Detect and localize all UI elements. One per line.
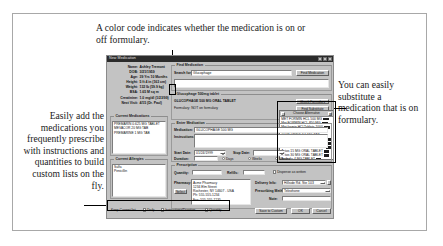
stop-date-input[interactable] xyxy=(253,150,285,156)
radio-icon[interactable] xyxy=(222,157,225,160)
duration-unit-days[interactable]: Days xyxy=(222,157,234,162)
current-medications-legend: Current Medications xyxy=(114,114,151,119)
formulary-color-code xyxy=(323,118,329,121)
window-body: Name:Ashley Tremont DOB:3/21/1959 Age:39… xyxy=(107,62,333,219)
popup-header: Choose Alternative x xyxy=(280,111,333,117)
keep-current-list-checkbox[interactable]: Keep Current list xyxy=(111,208,136,213)
patient-value: 4/15 (Dr. Paul) xyxy=(140,101,162,106)
start-date-input[interactable]: 01/24/1999 xyxy=(194,150,226,156)
search-input[interactable]: Glucophage xyxy=(191,70,292,76)
footer-checkbox-label: Daily xyxy=(147,208,154,212)
duration-label: Duration: xyxy=(174,157,189,161)
find-medication-button[interactable]: Find Medication xyxy=(296,70,329,76)
dispense-label: Dispense as written xyxy=(277,170,306,174)
prescribing-method-value: Telephone xyxy=(284,189,300,193)
quantity-checkbox[interactable]: Quantity xyxy=(205,208,221,213)
duration-input[interactable] xyxy=(194,156,218,161)
prescribing-method-select[interactable]: Telephone xyxy=(282,188,331,193)
medication-label: Medication: xyxy=(174,128,193,132)
figure-container: A color code indicates whether the medic… xyxy=(0,0,443,246)
current-allergies-list[interactable]: Sulfa Penicillin xyxy=(112,164,166,197)
duration-unit-label: Months xyxy=(279,157,290,161)
checkbox-icon[interactable] xyxy=(273,170,276,173)
instructions-duration-checkbox[interactable]: Instructions/Duration xyxy=(161,208,195,213)
delivery-label: Delivery Info: xyxy=(255,181,276,185)
checkbox-icon[interactable] xyxy=(143,208,146,211)
window-controls[interactable] xyxy=(318,57,332,61)
footer-checkbox-label: Keep Current list xyxy=(111,208,136,212)
chevron-down-icon[interactable] xyxy=(279,152,283,155)
application-window: New Medication Name:Ashley Tremont DOB:3… xyxy=(106,55,334,219)
refills-label: Refills: xyxy=(227,171,238,175)
duration-unit-label: Days xyxy=(226,157,234,161)
maximize-icon[interactable] xyxy=(323,57,327,61)
select-pharmacy-button[interactable]: Select xyxy=(174,189,187,194)
leader-line-left xyxy=(84,205,106,206)
quantity-label: Quantity: xyxy=(174,171,189,175)
checkbox-icon[interactable] xyxy=(205,208,208,211)
instructions-textarea[interactable] xyxy=(194,134,328,148)
selected-medication-name: GLUCOPHAGE 500 MG ORAL TABLET xyxy=(174,99,236,103)
formulary-status-label: Formulary: NOT on formulary xyxy=(174,106,218,110)
patient-key: Next Visit: xyxy=(121,101,138,106)
notes-label: Note: xyxy=(269,197,278,201)
popup-system-icon[interactable] xyxy=(281,112,285,116)
selected-medication-legend: Glucophage 500mg tablet xyxy=(175,92,221,97)
save-to-custom-button[interactable]: Save to Custom xyxy=(255,208,287,214)
enter-medication-legend: Enter Medication xyxy=(175,121,206,126)
find-medication-legend: Find Medication xyxy=(175,63,205,68)
close-icon[interactable] xyxy=(328,57,332,61)
instructions-label: Instructions: xyxy=(174,135,195,139)
duration-unit-months[interactable]: Months xyxy=(275,157,290,162)
popup-title: Choose Alternative xyxy=(293,111,320,115)
radio-icon[interactable] xyxy=(248,157,251,160)
stop-date-label: Stop Date: xyxy=(233,151,250,155)
footer-checkbox-label: Instructions/Duration xyxy=(165,208,195,212)
caption-right: You can easily substitute a medication t… xyxy=(338,79,424,125)
duration-unit-label: Weeks xyxy=(252,157,262,161)
refills-input[interactable] xyxy=(243,170,265,175)
delivery-select[interactable]: Hillside Rd. Ste 103 xyxy=(282,180,326,185)
start-date-label: Start Date: xyxy=(174,151,191,155)
patient-row: Next Visit:4/15 (Dr. Paul) xyxy=(110,101,168,106)
chevron-down-icon[interactable] xyxy=(220,152,224,155)
patient-demographics: Name:Ashley Tremont DOB:3/21/1959 Age:39… xyxy=(110,65,168,112)
list-item[interactable]: Penicillin xyxy=(113,169,165,173)
prescription-legend: Prescription xyxy=(175,163,198,168)
pharmacy-line: Fax: 555-555-1235 xyxy=(192,198,250,202)
caption-top: A color code indicates whether the medic… xyxy=(96,22,311,45)
list-item[interactable]: PREMARINE 1 MG TAB xyxy=(113,131,165,135)
dispense-as-written-checkbox[interactable]: Dispense as written xyxy=(273,170,306,175)
caption-left: Easily add the medications you frequentl… xyxy=(18,110,104,191)
delivery-lookup-button[interactable] xyxy=(327,180,331,185)
ok-button[interactable]: OK xyxy=(291,208,310,214)
current-allergies-legend: Current Allergies xyxy=(114,157,145,162)
chevron-down-icon[interactable] xyxy=(320,182,324,184)
quantity-input[interactable] xyxy=(192,170,222,175)
footer-checkbox-label: Quantity xyxy=(209,208,221,212)
search-label: Search for: xyxy=(174,71,192,75)
check-formulary-button[interactable]: Check Formulary xyxy=(296,99,329,104)
pharmacy-details-list[interactable]: Acme Pharmacy1234 Elm StreetRochester, N… xyxy=(191,179,251,205)
checkbox-icon[interactable] xyxy=(161,208,164,211)
daily-checkbox[interactable]: Daily xyxy=(143,208,155,213)
popup-close-icon[interactable]: x xyxy=(328,112,332,116)
notes-input[interactable] xyxy=(282,196,331,201)
window-title: New Medication xyxy=(109,56,136,60)
pharmacy-label: Pharmacy: xyxy=(174,181,191,185)
cancel-button[interactable]: Cancel xyxy=(312,208,331,214)
radio-icon[interactable] xyxy=(275,157,278,160)
medication-input[interactable]: GLUCOPHAGE 500 MG xyxy=(194,127,328,133)
search-results-field[interactable] xyxy=(174,79,329,88)
start-date-value: 01/24/1999 xyxy=(196,151,213,155)
chevron-down-icon[interactable] xyxy=(325,190,329,192)
duration-unit-weeks[interactable]: Weeks xyxy=(248,157,262,162)
pharmacy-lines: Acme Pharmacy1234 Elm StreetRochester, N… xyxy=(192,181,250,202)
minimize-icon[interactable] xyxy=(318,57,322,61)
current-medications-list[interactable]: PREMARIN 0.625 MG TABLET MEVACOR 20 MG T… xyxy=(112,121,166,154)
delivery-value: Hillside Rd. Ste 103 xyxy=(284,181,314,185)
